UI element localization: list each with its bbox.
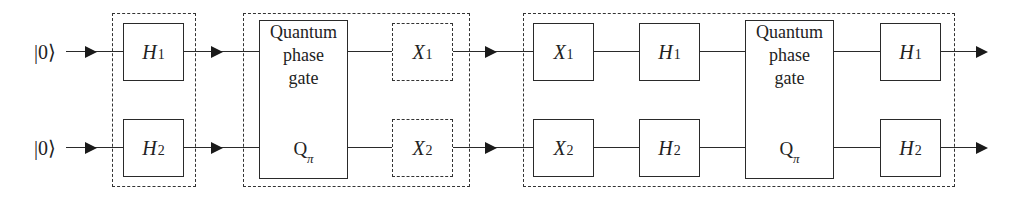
qpg1-line3: gate xyxy=(260,67,347,90)
gate-h2-final-index: 2 xyxy=(915,143,922,159)
qpg1-symbol-pi: π xyxy=(307,151,314,166)
qpg1-symbol: Qπ xyxy=(260,137,347,167)
arrow-right-icon xyxy=(485,142,497,154)
gate-h1-inv: H1 xyxy=(639,23,700,81)
gate-x1-optional-index: 1 xyxy=(426,47,433,63)
qpg2-line3: gate xyxy=(746,67,833,90)
gate-h1-inv-label: H xyxy=(658,41,672,64)
gate-x2-label: X xyxy=(553,137,565,160)
gate-h2-inv: H2 xyxy=(639,119,700,177)
qpg2-symbol: Qπ xyxy=(746,137,833,167)
gate-h2-label: H xyxy=(142,137,156,160)
gate-h1-label: H xyxy=(142,41,156,64)
gate-x2-optional-index: 2 xyxy=(426,143,433,159)
gate-h2-final-label: H xyxy=(899,137,913,160)
qpg2-symbol-q: Q xyxy=(779,138,793,159)
qpg2-line1: Quantum xyxy=(746,21,833,44)
gate-h1-final-label: H xyxy=(899,41,913,64)
arrow-right-icon xyxy=(976,142,988,154)
arrow-right-icon xyxy=(85,142,97,154)
input-ket-qubit-2: |0⟩ xyxy=(34,136,56,160)
gate-h2-inv-label: H xyxy=(658,137,672,160)
gate-h2: H2 xyxy=(123,119,184,177)
arrow-right-icon xyxy=(211,46,223,58)
gate-x2-optional: X2 xyxy=(392,119,453,177)
qpg1-line2: phase xyxy=(260,44,347,67)
gate-h1: H1 xyxy=(123,23,184,81)
gate-h2-index: 2 xyxy=(158,143,165,159)
gate-h2-inv-index: 2 xyxy=(674,143,681,159)
qpg2-line2: phase xyxy=(746,44,833,67)
gate-x2-optional-label: X xyxy=(412,137,424,160)
gate-x2-index: 2 xyxy=(567,143,574,159)
input-ket-qubit-1: |0⟩ xyxy=(34,40,56,64)
gate-x1-optional: X1 xyxy=(392,23,453,81)
gate-h1-inv-index: 1 xyxy=(674,47,681,63)
gate-x2: X2 xyxy=(533,119,594,177)
quantum-phase-gate-2: Quantum phase gate Qπ xyxy=(745,20,834,179)
gate-x1: X1 xyxy=(533,23,594,81)
arrow-right-icon xyxy=(85,46,97,58)
quantum-phase-gate-1: Quantum phase gate Qπ xyxy=(259,20,348,179)
gate-h1-final-index: 1 xyxy=(915,47,922,63)
gate-x1-label: X xyxy=(553,41,565,64)
arrow-right-icon xyxy=(211,142,223,154)
gate-h1-index: 1 xyxy=(158,47,165,63)
qpg1-line1: Quantum xyxy=(260,21,347,44)
arrow-right-icon xyxy=(976,46,988,58)
gate-h1-final: H1 xyxy=(880,23,941,81)
qpg1-symbol-q: Q xyxy=(293,138,307,159)
gate-h2-final: H2 xyxy=(880,119,941,177)
qpg2-symbol-pi: π xyxy=(793,151,800,166)
arrow-right-icon xyxy=(485,46,497,58)
gate-x1-optional-label: X xyxy=(412,41,424,64)
gate-x1-index: 1 xyxy=(567,47,574,63)
